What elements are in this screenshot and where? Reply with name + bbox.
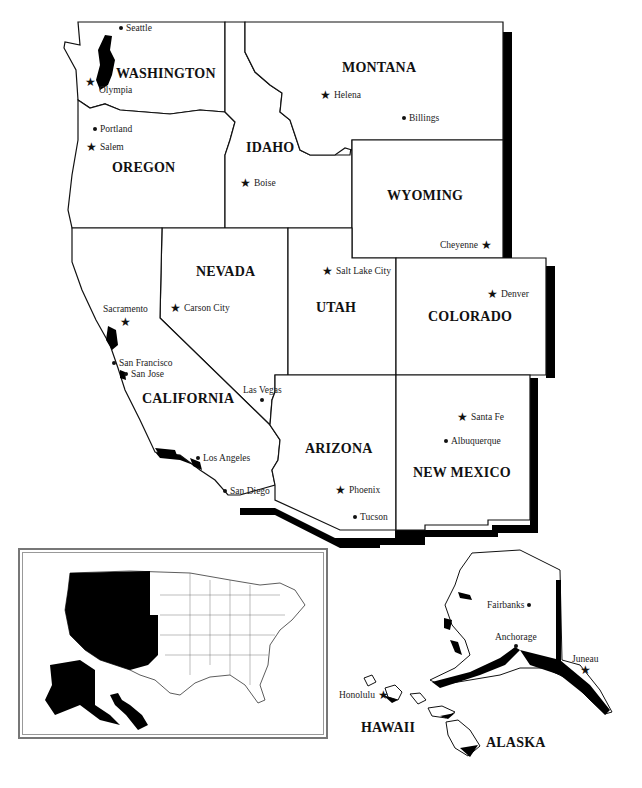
- dot-icon: [514, 644, 518, 648]
- city-san-francisco: San Francisco: [112, 358, 173, 368]
- city-juneau: Juneau★: [572, 654, 598, 676]
- dot-icon: [353, 515, 357, 519]
- city-fairbanks: Fairbanks: [487, 600, 531, 610]
- dot-icon: [444, 439, 448, 443]
- new-mexico-shape: [396, 375, 530, 530]
- label-utah: UTAH: [316, 300, 356, 316]
- city-phoenix: ★Phoenix: [335, 484, 380, 496]
- dot-icon: [196, 456, 200, 460]
- city-san-jose: San Jose: [124, 369, 164, 379]
- label-idaho: IDAHO: [246, 140, 294, 156]
- city-salt-lake-city: ★Salt Lake City: [322, 265, 391, 277]
- city-boise: ★Boise: [240, 177, 276, 189]
- city-carson-city: ★Carson City: [170, 302, 230, 314]
- star-icon: ★: [481, 239, 492, 251]
- label-oregon: OREGON: [112, 160, 175, 176]
- dot-icon: [119, 26, 123, 30]
- city-santa-fe: ★Santa Fe: [457, 411, 504, 423]
- dot-icon: [260, 398, 264, 402]
- city-tucson: Tucson: [353, 512, 388, 522]
- star-icon: ★: [322, 265, 333, 277]
- star-icon: ★: [580, 664, 591, 676]
- city-sacramento: Sacramento★: [103, 304, 148, 328]
- inset-frame: [18, 548, 328, 739]
- western-us-map: WASHINGTON OREGON IDAHO MONTANA WYOMING …: [0, 0, 642, 788]
- star-icon: ★: [320, 89, 331, 101]
- city-albuquerque: Albuquerque: [444, 436, 501, 446]
- city-anchorage: Anchorage: [495, 632, 537, 648]
- city-cheyenne: Cheyenne★: [440, 239, 492, 251]
- city-salem: ★Salem: [86, 141, 124, 153]
- city-seattle: Seattle: [119, 23, 152, 33]
- city-honolulu: Honolulu★: [339, 689, 389, 701]
- city-los-angeles: Los Angeles: [196, 453, 250, 463]
- star-icon: ★: [378, 689, 389, 701]
- star-icon: ★: [240, 177, 251, 189]
- star-icon: ★: [120, 316, 131, 328]
- city-helena: ★Helena: [320, 89, 361, 101]
- city-olympia: ★Olympia: [85, 76, 132, 95]
- star-icon: ★: [457, 411, 468, 423]
- label-new-mexico: NEW MEXICO: [413, 465, 511, 481]
- star-icon: ★: [86, 141, 97, 153]
- label-alaska: ALASKA: [486, 735, 546, 751]
- dot-icon: [112, 361, 116, 365]
- label-california: CALIFORNIA: [142, 391, 234, 407]
- dot-icon: [223, 489, 227, 493]
- label-wyoming: WYOMING: [387, 188, 463, 204]
- city-las-vegas: Las Vegas: [243, 385, 282, 402]
- dot-icon: [527, 603, 531, 607]
- star-icon: ★: [487, 288, 498, 300]
- city-san-diego: San Diego: [223, 486, 270, 496]
- label-hawaii: HAWAII: [361, 720, 415, 736]
- star-icon: ★: [170, 302, 181, 314]
- city-portland: Portland: [93, 124, 132, 134]
- city-billings: Billings: [402, 113, 439, 123]
- star-icon: ★: [85, 76, 96, 88]
- star-icon: ★: [335, 484, 346, 496]
- city-denver: ★Denver: [487, 288, 529, 300]
- dot-icon: [93, 127, 97, 131]
- dot-icon: [402, 116, 406, 120]
- label-nevada: NEVADA: [196, 264, 255, 280]
- dot-icon: [124, 372, 128, 376]
- label-colorado: COLORADO: [428, 309, 512, 325]
- label-montana: MONTANA: [342, 60, 416, 76]
- label-arizona: ARIZONA: [305, 441, 373, 457]
